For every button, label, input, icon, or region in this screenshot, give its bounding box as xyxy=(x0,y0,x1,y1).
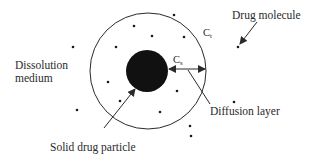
solid-drug-particle-pointer xyxy=(104,89,135,128)
bulk-concentration-subscript: t xyxy=(210,32,212,40)
drug-molecule-dot xyxy=(173,14,176,17)
drug-molecule-dot xyxy=(119,100,122,103)
solid-drug-particle-label: Solid drug particle xyxy=(50,141,136,154)
drug-molecule-dot xyxy=(115,46,118,49)
drug-molecule-label: Drug molecule xyxy=(232,9,301,22)
drug-molecule-dot xyxy=(72,46,75,49)
surface-concentration-subscript: s xyxy=(180,59,183,67)
dissolution-medium-line2: medium xyxy=(15,72,68,85)
drug-molecule-dot xyxy=(189,125,192,128)
surface-concentration-label: Cs xyxy=(173,54,183,67)
drug-molecule-dot xyxy=(176,90,179,93)
drug-molecule-dot xyxy=(237,46,240,49)
drug-molecule-dot xyxy=(107,81,110,84)
surface-concentration-symbol: C xyxy=(173,54,180,65)
bulk-concentration-label: Ct xyxy=(203,27,212,40)
drug-molecule-dot xyxy=(133,25,136,28)
drug-molecule-dot xyxy=(159,111,162,114)
dissolution-medium-label: Dissolution medium xyxy=(15,59,68,85)
bulk-concentration-symbol: C xyxy=(203,27,210,38)
drug-molecule-dot xyxy=(190,135,193,138)
drug-molecule-dot xyxy=(76,109,79,112)
drug-molecule-dot xyxy=(183,36,186,39)
drug-molecule-dot xyxy=(151,35,154,38)
solid-drug-particle xyxy=(126,50,168,92)
dissolution-medium-line1: Dissolution xyxy=(15,59,68,72)
drug-molecule-pointer xyxy=(240,22,257,44)
drug-molecule-dot xyxy=(233,101,236,104)
diffusion-layer-label: Diffusion layer xyxy=(210,105,280,118)
